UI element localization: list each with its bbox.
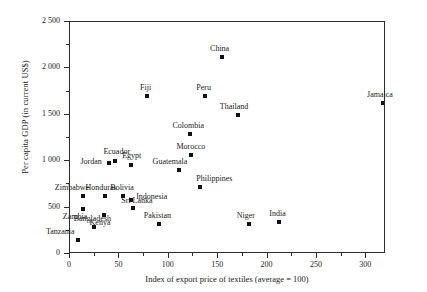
- chart-page: Per capita GDP (in current US$) Index of…: [0, 0, 427, 292]
- y-tick-label: 1 000: [20, 155, 60, 164]
- x-tick-label: 200: [247, 260, 287, 269]
- x-axis-title: Index of export price of textiles (avera…: [69, 274, 385, 284]
- y-tick-label: 0: [20, 248, 60, 257]
- x-tick-label: 150: [197, 260, 237, 269]
- x-tick-label: 50: [98, 260, 138, 269]
- y-tick-label: 2 000: [20, 62, 60, 71]
- x-tick-label: 250: [296, 260, 336, 269]
- x-tick-label: 300: [345, 260, 385, 269]
- plot-frame: [69, 21, 385, 253]
- y-tick-label: 500: [20, 202, 60, 211]
- x-tick-label: 0: [49, 260, 89, 269]
- x-tick-label: 100: [148, 260, 188, 269]
- y-tick-label: 2 500: [20, 16, 60, 25]
- y-tick-label: 1 500: [20, 109, 60, 118]
